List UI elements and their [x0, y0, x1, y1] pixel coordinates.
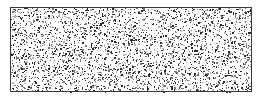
- stipple-hatch-swatch: [0, 0, 262, 96]
- diagram-canvas: [0, 0, 262, 96]
